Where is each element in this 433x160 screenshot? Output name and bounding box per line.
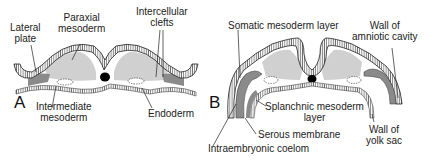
label-serous-membrane: Serous membrane [258,129,340,140]
label-splanchnic-mesoderm-layer: Splanchnic mesoderm layer [265,101,364,123]
label-intercellular-clefts: Intercellular clefts [136,6,188,28]
intermediate-mesoderm-right [128,78,144,84]
paraxial-mesoderm-b-left [262,50,302,80]
notochord-a [100,73,110,82]
label-intermediate-mesoderm: Intermediate mesoderm [36,101,92,123]
label-lateral-plate: Lateral plate [10,22,41,44]
endoderm-a [16,84,196,96]
panel-b-letter: B [209,94,220,111]
paraxial-mesoderm-b-right [322,50,362,80]
label-endoderm: Endoderm [148,108,194,119]
label-somatic-mesoderm-layer: Somatic mesoderm layer [228,20,339,31]
panel-a-letter: A [14,94,25,111]
intermediate-mesoderm-b-right [347,77,361,84]
panel-a-drawing [14,30,198,108]
label-intraembryonic-coelom: Intraembryonic coelom [208,143,309,154]
label-wall-of-yolk-sac: Wall of yolk sac [366,124,402,146]
label-wall-of-amniotic-cavity: Wall of amniotic cavity [352,20,418,42]
intermediate-mesoderm-b-left [264,77,278,84]
intermediate-mesoderm-left [57,79,73,85]
label-paraxial-mesoderm: Paraxial mesoderm [58,12,105,34]
paraxial-mesoderm-right [114,52,168,81]
